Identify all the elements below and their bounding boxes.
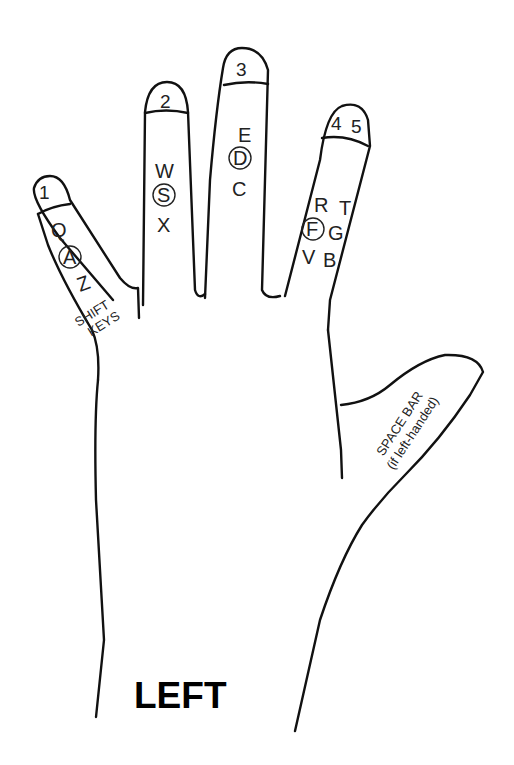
index-finger (285, 105, 370, 330)
key-a: A (63, 246, 77, 268)
key-r: R (314, 194, 328, 216)
key-c: C (232, 178, 246, 200)
key-q: Q (51, 219, 67, 241)
shift-keys-label: SHIFT KEYS (72, 295, 123, 342)
space-bar-label: SPACE BAR (if left-handed) (370, 385, 442, 472)
pinky-number: 1 (39, 182, 50, 203)
ring-finger (143, 82, 205, 305)
left-hand-diagram: 1 2 3 4 5 Q A Z SHIFT KEYS W S X E D C R… (0, 0, 514, 765)
key-f: F (306, 218, 318, 240)
hand-title: LEFT (134, 675, 227, 716)
key-w: W (155, 160, 174, 182)
key-t: T (339, 197, 351, 219)
index-number-4: 4 (331, 113, 342, 134)
ring-number: 2 (160, 91, 171, 112)
index-number-5: 5 (351, 116, 362, 137)
key-b: B (323, 249, 336, 271)
key-e: E (238, 124, 251, 146)
key-s: S (157, 184, 170, 206)
key-v: V (302, 246, 316, 268)
key-x: X (157, 214, 170, 236)
key-g: G (328, 222, 344, 244)
key-d: D (233, 147, 247, 169)
middle-finger (205, 48, 280, 298)
middle-number: 3 (236, 59, 247, 80)
palm-outline (95, 330, 483, 731)
